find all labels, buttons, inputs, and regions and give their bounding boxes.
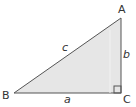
side-label-c: c <box>62 41 68 54</box>
vertex-label-b: B <box>2 89 10 102</box>
side-label-b: b <box>123 48 130 61</box>
side-label-a: a <box>64 93 71 106</box>
vertex-label-a: A <box>118 3 126 16</box>
right-triangle-diagram: A B C c b a <box>0 0 136 107</box>
triangle-shape <box>14 18 121 93</box>
vertex-label-c: C <box>123 93 131 106</box>
